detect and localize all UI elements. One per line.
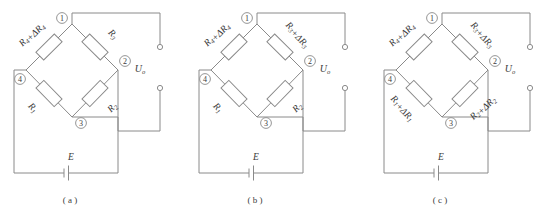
panel-3-output: Uo [505, 44, 533, 90]
output-terminal-bottom [342, 85, 347, 90]
panel-3-caption: ( c ) [433, 195, 448, 205]
panel-1-caption: ( a ) [63, 195, 78, 205]
panel-2-arm-bottom-right-label: R2 [290, 100, 305, 115]
panel-3-node-3: 3 [446, 118, 457, 129]
panel-2-source-label: E [252, 152, 259, 162]
panel-2-node-3: 3 [261, 118, 272, 129]
panel-2-arm-bottom-right-body [267, 80, 293, 106]
panel-1-output: Uo [135, 44, 163, 90]
panel-3-arm-bottom-right-label: R2+ΔR2 [467, 93, 498, 124]
svg-text:1: 1 [430, 14, 434, 23]
panel-1-arm-top-right-label: R3 [105, 27, 120, 42]
panel-2-node-1: 1 [242, 13, 253, 24]
panel-2-arm-bottom-left-body [221, 80, 247, 106]
panel-3-node-2: 2 [490, 56, 501, 67]
panel-2-arm-top-right-body [267, 34, 293, 60]
panel-1-arm-bottom-left-body [36, 80, 62, 106]
panel-3-arm-bottom-left-body [406, 80, 432, 106]
panel-1-arm-top-right-body [82, 34, 108, 60]
panel-3-arm-top-right-body [452, 34, 478, 60]
panel-1-arm-bottom-left: R1 [25, 70, 72, 117]
panel-1-node-2: 2 [120, 56, 131, 67]
panel-2-node-2: 2 [305, 56, 316, 67]
panel-2-node-4: 4 [200, 74, 211, 85]
panel-1-arm-bottom-right-body [82, 80, 108, 106]
svg-text:2: 2 [308, 57, 312, 66]
panel-2-caption: ( b ) [248, 195, 263, 205]
panel-3-node-1: 1 [427, 13, 438, 24]
panel-1-arm-bottom-right-label: R2 [105, 100, 120, 115]
panel-2-svg: EUoR4+ΔR4R3+ΔR3R1R21234( b ) [185, 0, 369, 215]
output-voltage-label: Uo [505, 63, 516, 75]
panel-3-arm-top-left-body [406, 34, 432, 60]
output-voltage-label: Uo [320, 63, 331, 75]
panel-2-output: Uo [320, 44, 348, 90]
panel-1-arm-top-right: R3 [72, 24, 120, 70]
panel-3-node-4: 4 [385, 74, 396, 85]
panel-3-arm-bottom-left-label: R1+ΔR1 [386, 93, 417, 124]
bridge-panel-b: EUoR4+ΔR4R3+ΔR3R1R21234( b ) [185, 0, 369, 215]
panel-1-node-3: 3 [76, 118, 87, 129]
panel-3-arm-bottom-right-body [452, 80, 478, 106]
panel-1-arm-top-left-body [36, 34, 62, 60]
panel-3-arm-bottom-right: R2+ΔR2 [442, 70, 498, 124]
svg-text:1: 1 [60, 14, 64, 23]
output-terminal-top [157, 44, 162, 49]
panel-2-arm-top-left-body [221, 34, 247, 60]
output-terminal-top [342, 44, 347, 49]
panel-2-arm-bottom-left: R1 [210, 70, 257, 117]
svg-text:4: 4 [203, 75, 207, 84]
panel-3-svg: EUoR4+ΔR4R3+ΔR3R1+ΔR1R2+ΔR21234( c ) [370, 0, 554, 215]
panel-1-svg: EUoR4+ΔR4R3R1R21234( a ) [0, 0, 184, 215]
panel-1-node-1: 1 [57, 13, 68, 24]
svg-text:1: 1 [245, 14, 249, 23]
bridge-panel-a: EUoR4+ΔR4R3R1R21234( a ) [0, 0, 184, 215]
output-terminal-top [527, 44, 532, 49]
output-terminal-bottom [527, 85, 532, 90]
svg-text:3: 3 [449, 119, 453, 128]
panel-1-arm-bottom-left-label: R1 [25, 100, 40, 115]
panel-2-battery: E [249, 152, 270, 181]
svg-text:3: 3 [79, 119, 83, 128]
svg-text:2: 2 [123, 57, 127, 66]
panel-1-source-label: E [67, 152, 74, 162]
panel-1-arm-bottom-right: R2 [72, 70, 120, 117]
panel-3-source-label: E [437, 152, 444, 162]
output-terminal-bottom [157, 85, 162, 90]
svg-text:4: 4 [388, 75, 392, 84]
svg-text:3: 3 [264, 119, 268, 128]
output-voltage-label: Uo [135, 63, 146, 75]
svg-text:4: 4 [18, 75, 22, 84]
panel-3-battery: E [434, 152, 455, 181]
bridge-panel-c: EUoR4+ΔR4R3+ΔR3R1+ΔR1R2+ΔR21234( c ) [370, 0, 554, 215]
panel-2-arm-bottom-left-label: R1 [210, 100, 225, 115]
panel-1-battery: E [64, 152, 85, 181]
svg-text:2: 2 [493, 57, 497, 66]
panel-1-arm-top-left: R4+ΔR4 [16, 19, 72, 70]
panel-1-node-4: 4 [15, 74, 26, 85]
panel-3-arm-top-left: R4+ΔR4 [386, 19, 442, 70]
panel-2-arm-top-left: R4+ΔR4 [201, 19, 257, 70]
bridge-circuit-figure: EUoR4+ΔR4R3R1R21234( a )EUoR4+ΔR4R3+ΔR3R… [0, 0, 554, 215]
panel-2-arm-bottom-right: R2 [257, 70, 305, 117]
